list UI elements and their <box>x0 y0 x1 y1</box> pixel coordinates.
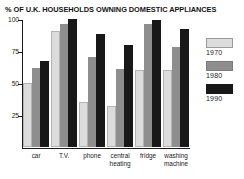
legend-entry-1970[interactable]: 1970 <box>206 38 242 56</box>
legend-entry-1990[interactable]: 1990 <box>206 84 242 102</box>
bar-washing-machine-1970 <box>163 70 172 147</box>
bar-car-1990 <box>40 61 49 147</box>
medium-gray-swatch <box>206 61 233 71</box>
y-tick-label: 75 <box>12 48 19 55</box>
bar-phone-1990 <box>96 34 105 147</box>
bar-group <box>23 19 49 147</box>
legend-entry-1980[interactable]: 1980 <box>206 61 242 79</box>
light-gray-swatch <box>206 38 233 48</box>
chart-title: % OF U.K. HOUSEHOLDS OWNING DOMESTIC APP… <box>5 5 216 14</box>
black-swatch <box>206 84 233 94</box>
bar-chart: % OF U.K. HOUSEHOLDS OWNING DOMESTIC APP… <box>0 0 244 179</box>
x-axis-line <box>22 148 190 149</box>
bar-group <box>51 19 77 147</box>
bar-car-1980 <box>32 68 41 147</box>
bar-phone-1970 <box>79 102 88 147</box>
bar-fridge-1980 <box>144 24 153 147</box>
bar-fridge-1970 <box>135 70 144 147</box>
bar-group <box>135 19 161 147</box>
chart-legend: 197019801990 <box>206 38 242 107</box>
legend-label: 1990 <box>206 95 242 102</box>
bar-phone-1980 <box>88 57 97 147</box>
bar-t-v--1990 <box>68 19 77 147</box>
bar-group <box>79 19 105 147</box>
y-tick-label: 50 <box>12 80 19 87</box>
y-tick-label: 100 <box>8 16 19 23</box>
bar-central-heating-1970 <box>107 106 116 147</box>
legend-label: 1970 <box>206 49 242 56</box>
legend-label: 1980 <box>206 72 242 79</box>
x-axis-label-washing-machine: washing machine <box>154 152 198 167</box>
bar-washing-machine-1990 <box>180 29 189 147</box>
y-tick-label: 25 <box>12 112 19 119</box>
bar-fridge-1990 <box>152 20 161 147</box>
bar-central-heating-1990 <box>124 45 133 147</box>
bar-washing-machine-1980 <box>172 47 181 147</box>
bar-t-v--1970 <box>51 31 60 147</box>
bar-t-v--1980 <box>60 24 69 147</box>
bar-group <box>107 19 133 147</box>
bar-group <box>163 19 189 147</box>
bar-car-1970 <box>23 83 32 147</box>
plot-area: 255075100 <box>22 20 190 148</box>
bar-central-heating-1980 <box>116 69 125 147</box>
